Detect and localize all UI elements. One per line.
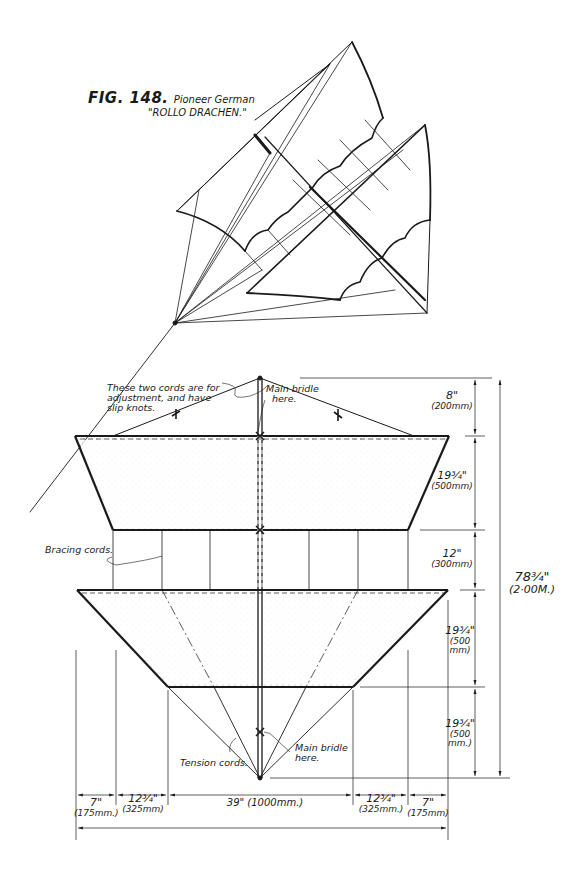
- dim-39in: 39" (1000mm.): [200, 798, 330, 809]
- dim-19-3-4in-upper: 19¾" (500mm): [430, 470, 474, 491]
- dim-12in: 12" (300mm): [430, 548, 474, 569]
- note-main-bridle-top: Main bridle here.: [266, 384, 319, 404]
- note-tension-cords: Tension cords.: [180, 758, 248, 768]
- dim-19-3-4in-lower: 19¾" (500 mm.): [445, 718, 475, 748]
- figure-subtitle-2: "ROLLO DRACHEN.": [148, 108, 247, 119]
- dim-7in-right: 7" (175mm): [406, 797, 450, 818]
- figure-subtitle-1: Pioneer German: [174, 94, 255, 105]
- note-adjustment-cords: These two cords are for adjustment, and …: [107, 383, 219, 413]
- dim-total-height: 78¾" (2·00M.): [502, 570, 562, 595]
- dim-12-3-4in-right: 12¾" (325mm.): [355, 793, 407, 814]
- note-main-bridle-bottom: Main bridle here.: [295, 743, 348, 763]
- figure-number: FIG. 148.: [88, 89, 169, 107]
- dim-8in: 8" (200mm): [430, 390, 474, 411]
- plan-view: [75, 376, 449, 780]
- note-bracing-cords: Bracing cords.: [45, 545, 113, 555]
- kite-drawing: [0, 0, 581, 876]
- dim-12-3-4in-left: 12¾" (325mm): [118, 793, 168, 814]
- dim-19-3-4in-middle: 19¾" (500 mm): [445, 625, 475, 655]
- figure-title: FIG. 148. Pioneer German: [88, 90, 255, 107]
- dim-7in-left: 7" (175mm.): [74, 797, 118, 818]
